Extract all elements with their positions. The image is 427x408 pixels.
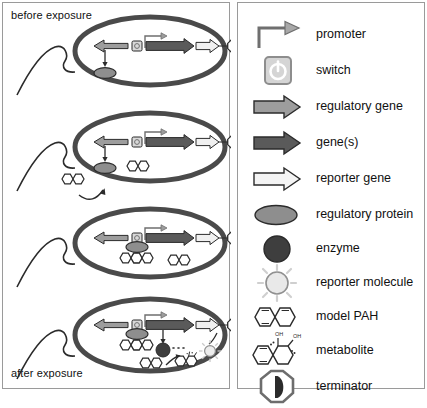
cell-stages-svg [3, 3, 231, 390]
legend-label-regulatory-protein: regulatory protein [316, 208, 413, 222]
legend-row-terminator: terminator [238, 365, 426, 408]
stage-3 [17, 209, 231, 287]
legend-label-reporter-gene: reporter gene [316, 172, 391, 186]
legend-label-terminator: terminator [316, 380, 372, 394]
legend-label-enzyme: enzyme [316, 242, 360, 256]
legend-label-model-pah: model PAH [316, 310, 378, 324]
legend-label-metabolite: metabolite [316, 344, 374, 358]
stage-1 [17, 17, 231, 95]
stage-4 [17, 299, 231, 379]
legend-label-gene: gene(s) [316, 136, 358, 150]
metabolite-oh-label-2: OH [293, 333, 301, 339]
cells-panel: before exposure after exposure [2, 2, 230, 389]
legend-panel: promoter switch regulatory gene [237, 2, 425, 389]
legend-label-promoter: promoter [316, 28, 366, 42]
stage-2 [17, 113, 231, 199]
legend-label-switch: switch [316, 64, 351, 78]
metabolite-oh-label-1: OH [275, 331, 283, 337]
legend-label-regulatory-gene: regulatory gene [316, 100, 403, 114]
terminator-icon [238, 365, 316, 408]
legend-label-reporter-molecule: reporter molecule [316, 276, 413, 290]
